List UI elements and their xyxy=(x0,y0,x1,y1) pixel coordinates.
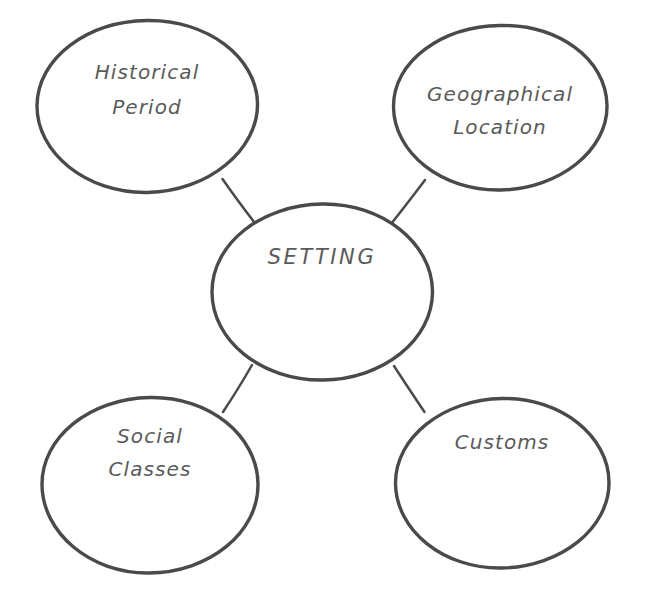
node-historical-period[interactable]: Historical Period xyxy=(37,20,258,192)
historical-period-label-line2: Period xyxy=(112,95,182,119)
setting-ellipse xyxy=(212,204,433,380)
customs-label: Customs xyxy=(455,430,550,454)
historical-period-label-line1: Historical xyxy=(95,60,200,84)
connector-setting-customs xyxy=(394,366,425,412)
node-customs[interactable]: Customs xyxy=(395,398,609,568)
connector-setting-social-classes xyxy=(223,365,252,412)
connector-setting-geographical-location xyxy=(391,180,425,224)
geographical-location-label-line2: Location xyxy=(453,115,547,139)
customs-ellipse xyxy=(395,398,609,568)
connector-setting-historical-period xyxy=(223,179,255,223)
setting-label: SETTING xyxy=(268,245,377,269)
node-setting[interactable]: SETTING xyxy=(212,204,433,380)
geographical-location-ellipse xyxy=(393,25,607,190)
concept-map-canvas: Historical Period Geographical Location … xyxy=(0,0,648,605)
geographical-location-label-line1: Geographical xyxy=(427,82,573,106)
social-classes-label-line2: Classes xyxy=(108,457,191,481)
setting-concept-map: Historical Period Geographical Location … xyxy=(0,0,648,605)
node-geographical-location[interactable]: Geographical Location xyxy=(393,25,607,190)
node-social-classes[interactable]: Social Classes xyxy=(42,397,258,573)
social-classes-label-line1: Social xyxy=(117,424,183,448)
